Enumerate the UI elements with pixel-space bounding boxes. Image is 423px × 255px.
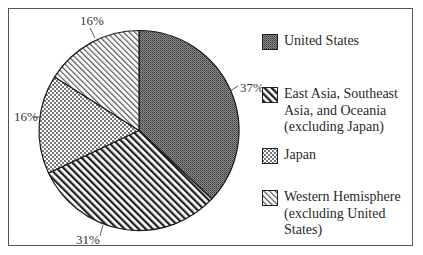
slice-label-east-asia: 31%: [76, 233, 100, 247]
legend-swatch-dense-icon: [262, 34, 278, 50]
legend-swatch-diagonal-light-icon: [262, 190, 278, 206]
legend-label: Japan: [284, 147, 316, 164]
leader-line-us: [230, 86, 238, 91]
legend-item-east-asia: East Asia, Southeast Asia, and Oceania (…: [262, 86, 398, 136]
leader-line-western: [90, 28, 95, 38]
legend-swatch-checker-icon: [262, 148, 278, 164]
slice-label-japan: 16%: [14, 110, 38, 124]
legend-item-united-states: United States: [262, 33, 359, 50]
slice-label-us: 37%: [240, 81, 264, 95]
legend-item-western-hemisphere: Western Hemisphere (excluding United Sta…: [262, 189, 401, 239]
legend-label: United States: [284, 33, 359, 50]
slice-label-western: 16%: [80, 14, 104, 28]
legend-item-japan: Japan: [262, 147, 316, 164]
leader-line-east-asia: [100, 225, 103, 236]
legend-swatch-diagonal-bold-icon: [262, 87, 278, 103]
legend-label: East Asia, Southeast Asia, and Oceania (…: [284, 86, 398, 136]
legend-label: Western Hemisphere (excluding United Sta…: [284, 189, 401, 239]
